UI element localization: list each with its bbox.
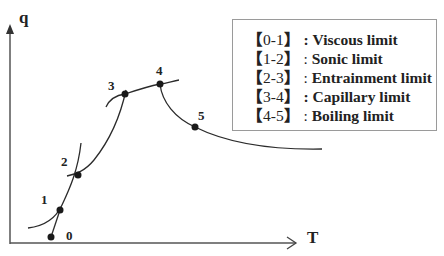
y-axis-label: q	[19, 8, 28, 28]
point-1-marker	[57, 207, 64, 214]
point-5-marker	[192, 124, 199, 131]
legend-bracket-close: 】	[284, 107, 300, 124]
legend-separator: :	[300, 107, 312, 124]
operating-limits-diagram: q T 0 1 2 3 4 5 【0-1】 : Viscous limit 【1…	[0, 0, 444, 256]
legend-item-boiling: 【4-5】 : Boiling limit	[247, 103, 394, 125]
legend-bracket-open: 【	[247, 107, 263, 124]
curve-entrainment-2-3	[67, 90, 126, 176]
x-axis-label: T	[307, 228, 318, 248]
point-0-label: 0	[66, 228, 73, 244]
curve-capillary-3-4	[106, 80, 179, 107]
point-3-marker	[122, 91, 129, 98]
legend-range: 4-5	[263, 107, 284, 124]
point-1-label: 1	[41, 192, 48, 208]
point-5-label: 5	[198, 108, 205, 124]
point-3-label: 3	[108, 78, 115, 94]
curve-sonic-1-2	[28, 143, 81, 228]
legend-name: Boiling limit	[312, 107, 394, 124]
y-axis-arrowhead-icon	[6, 24, 14, 34]
point-4-label: 4	[156, 63, 163, 79]
point-2-label: 2	[61, 154, 68, 170]
point-0-marker	[48, 234, 55, 241]
legend-box: 【0-1】 : Viscous limit 【1-2】 : Sonic limi…	[232, 19, 437, 131]
point-2-marker	[75, 172, 82, 179]
point-4-marker	[157, 81, 164, 88]
